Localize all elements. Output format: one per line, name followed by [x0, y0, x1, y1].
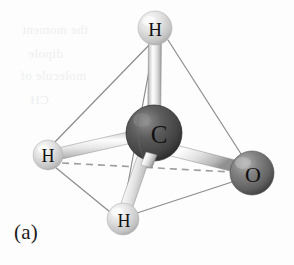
edge-hbottom-oright [137, 181, 235, 213]
figure-caption: (a) [14, 222, 38, 243]
edge-hleft-hbottom [55, 167, 110, 212]
oxygen-right-label: O [245, 162, 261, 187]
hydrogen-top-label: H [148, 19, 162, 40]
molecule-diagram: H O H [0, 0, 294, 265]
hydrogen-bottom-label: H [118, 211, 131, 231]
hydrogen-left: H [33, 140, 63, 170]
carbon-center: C [126, 105, 182, 161]
hydrogen-top: H [138, 11, 172, 45]
hydrogen-bottom: H [107, 203, 139, 235]
figure-panel: the momentdipolemolecule ofCH [0, 0, 294, 265]
carbon-center-label: C [151, 121, 168, 148]
hydrogen-left-label: H [42, 146, 55, 166]
oxygen-right: O [230, 151, 274, 195]
